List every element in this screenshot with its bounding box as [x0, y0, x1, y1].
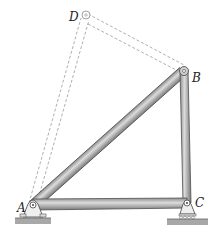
label-b: B: [192, 72, 201, 84]
member-ab: [30, 68, 187, 209]
joint-d: [82, 11, 90, 19]
member-ac: [33, 198, 187, 210]
label-d: D: [69, 11, 79, 23]
member-bc: [180, 70, 191, 203]
truss-diagram: [0, 0, 219, 243]
dashed-members: [29, 14, 184, 203]
label-c: C: [195, 197, 204, 209]
label-a: A: [17, 202, 26, 214]
